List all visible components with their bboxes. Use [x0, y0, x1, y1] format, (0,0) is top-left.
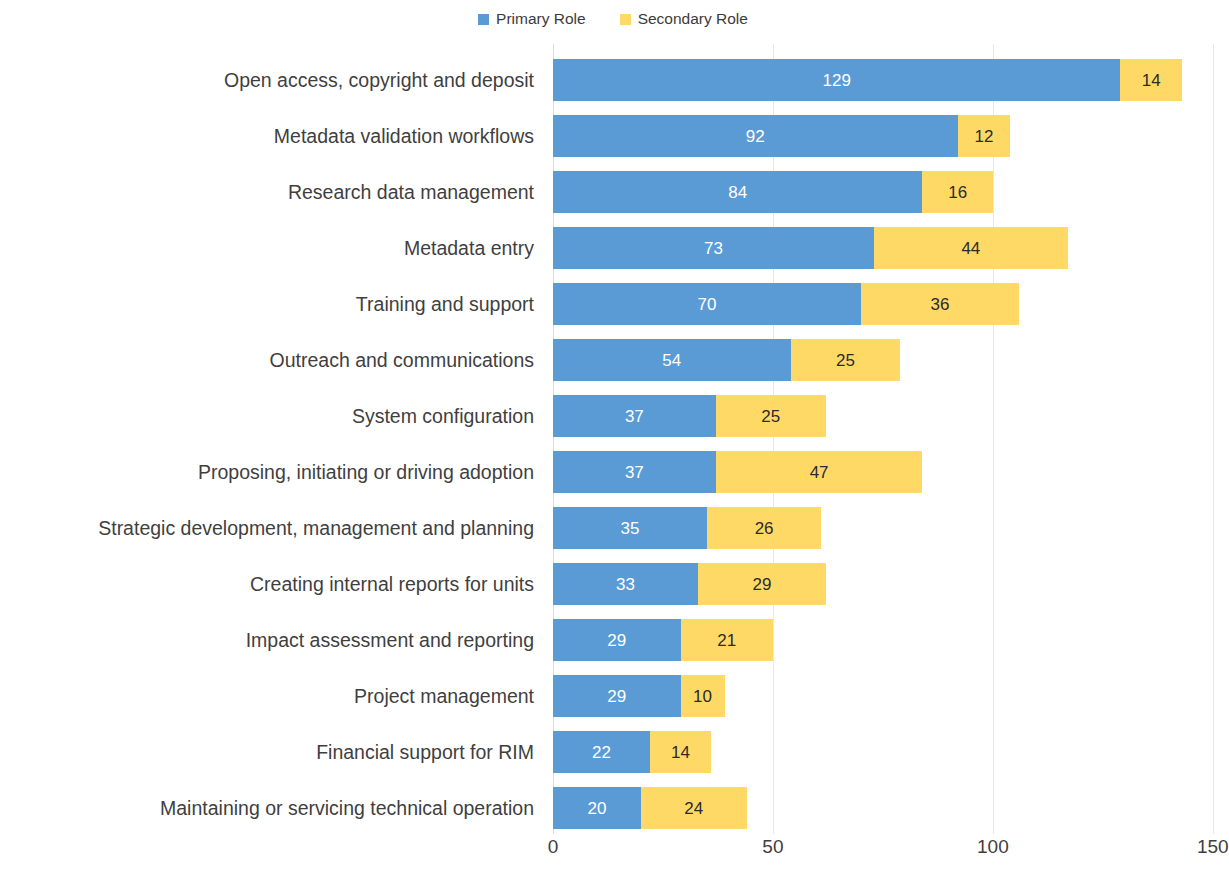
- category-label: Maintaining or servicing technical opera…: [160, 780, 534, 836]
- stacked-bar[interactable]: 12914: [553, 59, 1182, 101]
- category-label: Impact assessment and reporting: [246, 612, 534, 668]
- category-label: Metadata entry: [404, 220, 534, 276]
- bar-value-label: 20: [588, 800, 607, 817]
- category-label: Metadata validation workflows: [274, 108, 534, 164]
- bar-segment-secondary[interactable]: 36: [861, 283, 1019, 325]
- bar-value-label: 129: [823, 72, 851, 89]
- bar-segment-primary[interactable]: 29: [553, 675, 681, 717]
- category-label: Strategic development, management and pl…: [98, 500, 534, 556]
- stacked-bar[interactable]: 2921: [553, 619, 773, 661]
- bar-segment-primary[interactable]: 70: [553, 283, 861, 325]
- bar-segment-secondary[interactable]: 14: [1120, 59, 1182, 101]
- category-label: System configuration: [352, 388, 534, 444]
- bar-value-label: 14: [671, 744, 690, 761]
- bar-rows: Open access, copyright and deposit12914M…: [0, 44, 1226, 834]
- legend-label: Secondary Role: [638, 11, 748, 27]
- bar-row: Outreach and communications5425: [0, 332, 1226, 388]
- bar-value-label: 24: [684, 800, 703, 817]
- stacked-bar[interactable]: 7344: [553, 227, 1068, 269]
- bar-segment-secondary[interactable]: 26: [707, 507, 821, 549]
- bar-value-label: 73: [704, 240, 723, 257]
- x-axis-tick-label: 50: [762, 836, 783, 858]
- bar-value-label: 16: [948, 184, 967, 201]
- bar-segment-secondary[interactable]: 12: [958, 115, 1011, 157]
- bar-value-label: 29: [607, 688, 626, 705]
- bar-segment-secondary[interactable]: 10: [681, 675, 725, 717]
- bar-segment-secondary[interactable]: 47: [716, 451, 923, 493]
- stacked-bar[interactable]: 3747: [553, 451, 922, 493]
- x-axis-tick-label: 100: [977, 836, 1009, 858]
- bar-value-label: 44: [961, 240, 980, 257]
- bar-value-label: 37: [625, 408, 644, 425]
- bar-segment-primary[interactable]: 33: [553, 563, 698, 605]
- bar-value-label: 33: [616, 576, 635, 593]
- category-label: Project management: [354, 668, 534, 724]
- category-label: Creating internal reports for units: [250, 556, 534, 612]
- bar-segment-primary[interactable]: 84: [553, 171, 922, 213]
- bar-value-label: 47: [810, 464, 829, 481]
- bar-row: Impact assessment and reporting2921: [0, 612, 1226, 668]
- bar-row: Metadata entry7344: [0, 220, 1226, 276]
- x-axis: 050100150: [0, 836, 1226, 872]
- bar-value-label: 10: [693, 688, 712, 705]
- bar-segment-secondary[interactable]: 14: [650, 731, 712, 773]
- bar-value-label: 37: [625, 464, 644, 481]
- stacked-bar[interactable]: 3725: [553, 395, 826, 437]
- legend-swatch-icon: [620, 14, 631, 25]
- stacked-bar[interactable]: 2214: [553, 731, 711, 773]
- stacked-bar[interactable]: 3526: [553, 507, 821, 549]
- bar-segment-secondary[interactable]: 21: [681, 619, 773, 661]
- stacked-bar[interactable]: 3329: [553, 563, 826, 605]
- bar-segment-primary[interactable]: 37: [553, 451, 716, 493]
- bar-value-label: 29: [752, 576, 771, 593]
- bar-row: Creating internal reports for units3329: [0, 556, 1226, 612]
- bar-segment-secondary[interactable]: 25: [716, 395, 826, 437]
- bar-value-label: 22: [592, 744, 611, 761]
- stacked-bar[interactable]: 9212: [553, 115, 1010, 157]
- stacked-bar[interactable]: 8416: [553, 171, 993, 213]
- bar-value-label: 92: [746, 128, 765, 145]
- bar-row: Research data management8416: [0, 164, 1226, 220]
- stacked-bar[interactable]: 2024: [553, 787, 747, 829]
- bar-row: Strategic development, management and pl…: [0, 500, 1226, 556]
- bar-segment-primary[interactable]: 35: [553, 507, 707, 549]
- bar-segment-primary[interactable]: 73: [553, 227, 874, 269]
- category-label: Outreach and communications: [270, 332, 534, 388]
- stacked-bar[interactable]: 2910: [553, 675, 725, 717]
- bar-segment-primary[interactable]: 29: [553, 619, 681, 661]
- bar-row: System configuration3725: [0, 388, 1226, 444]
- bar-segment-primary[interactable]: 22: [553, 731, 650, 773]
- category-label: Open access, copyright and deposit: [224, 52, 534, 108]
- bar-value-label: 25: [761, 408, 780, 425]
- bar-segment-secondary[interactable]: 24: [641, 787, 747, 829]
- bar-value-label: 35: [621, 520, 640, 537]
- bar-value-label: 12: [975, 128, 994, 145]
- legend-label: Primary Role: [496, 11, 586, 27]
- bar-segment-secondary[interactable]: 44: [874, 227, 1068, 269]
- bar-segment-primary[interactable]: 129: [553, 59, 1120, 101]
- bar-row: Financial support for RIM2214: [0, 724, 1226, 780]
- bar-segment-primary[interactable]: 37: [553, 395, 716, 437]
- bar-value-label: 36: [931, 296, 950, 313]
- bar-value-label: 21: [717, 632, 736, 649]
- bar-row: Maintaining or servicing technical opera…: [0, 780, 1226, 836]
- stacked-bar[interactable]: 5425: [553, 339, 900, 381]
- category-label: Training and support: [356, 276, 534, 332]
- legend-item-primary[interactable]: Primary Role: [478, 11, 586, 27]
- bar-value-label: 84: [728, 184, 747, 201]
- category-label: Financial support for RIM: [316, 724, 534, 780]
- bar-segment-secondary[interactable]: 16: [922, 171, 992, 213]
- bar-segment-secondary[interactable]: 25: [791, 339, 901, 381]
- bar-value-label: 26: [755, 520, 774, 537]
- bar-segment-primary[interactable]: 54: [553, 339, 791, 381]
- bar-segment-primary[interactable]: 20: [553, 787, 641, 829]
- category-label: Research data management: [288, 164, 534, 220]
- legend-item-secondary[interactable]: Secondary Role: [620, 11, 748, 27]
- stacked-bar[interactable]: 7036: [553, 283, 1019, 325]
- bar-value-label: 25: [836, 352, 855, 369]
- legend-swatch-icon: [478, 14, 489, 25]
- bar-segment-secondary[interactable]: 29: [698, 563, 826, 605]
- bar-segment-primary[interactable]: 92: [553, 115, 958, 157]
- bar-row: Metadata validation workflows9212: [0, 108, 1226, 164]
